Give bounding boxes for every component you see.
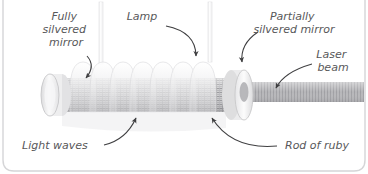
partially-silvered-mirror	[222, 70, 253, 120]
label-light-waves: Light waves	[22, 139, 88, 152]
label-rod-of-ruby: Rod of ruby	[285, 139, 349, 152]
lamp-helical-coil	[62, 62, 226, 132]
laser-beam	[235, 82, 364, 102]
leader-partially-silvered-mirror	[242, 32, 258, 62]
fully-silvered-mirror	[41, 74, 71, 116]
label-partially-silvered-mirror: Partially silvered mirror	[254, 10, 336, 36]
leader-lamp	[166, 26, 196, 56]
label-lamp: Lamp	[127, 10, 158, 23]
label-fully-silvered-mirror: Fully silvered mirror	[43, 10, 90, 49]
label-laser-beam: Laser beam	[316, 48, 349, 74]
laser-diagram-figure: Fully silvered mirror Lamp Partially sil…	[0, 0, 368, 174]
